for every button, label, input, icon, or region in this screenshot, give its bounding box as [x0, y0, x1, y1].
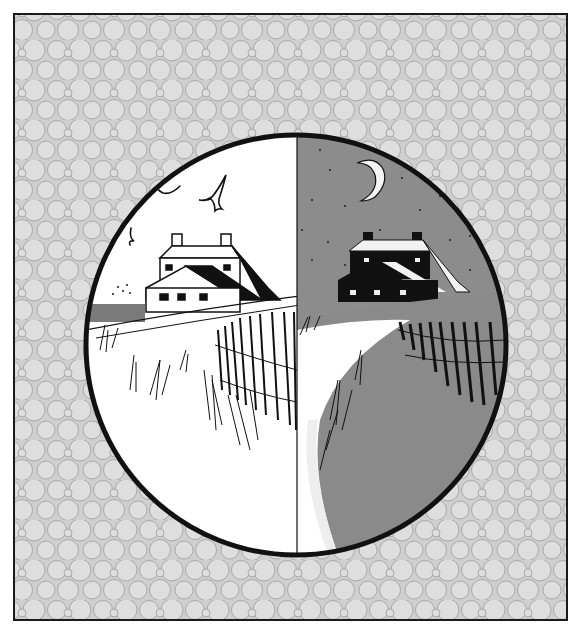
illustration: [0, 0, 582, 637]
